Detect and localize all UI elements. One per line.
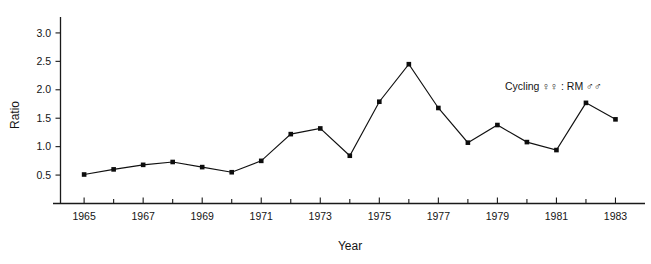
x-tick-label: 1965 <box>72 210 96 222</box>
data-point-marker <box>229 170 234 175</box>
data-point-marker <box>495 123 500 128</box>
series-legend-label: Cycling ♀♀ : RM ♂♂ <box>505 80 602 92</box>
data-point-marker <box>318 126 323 131</box>
y-tick-label: 1.5 <box>36 112 51 124</box>
data-point-marker <box>82 172 87 177</box>
x-tick-label: 1971 <box>250 210 274 222</box>
y-tick-label: 1.0 <box>36 140 51 152</box>
y-tick-label: 3.0 <box>36 27 51 39</box>
data-point-marker <box>170 160 175 165</box>
data-point-marker <box>377 99 382 104</box>
y-tick-label: 0.5 <box>36 169 51 181</box>
x-tick-label: 1967 <box>131 210 155 222</box>
line-chart: 0.51.01.52.02.53.0 196519671969197119731… <box>0 0 651 264</box>
data-point-marker <box>111 167 116 172</box>
data-point-marker <box>554 148 559 153</box>
y-tick-label: 2.0 <box>36 83 51 95</box>
x-tick-label: 1979 <box>486 210 510 222</box>
data-point-marker <box>288 132 293 137</box>
chart-background <box>0 0 651 264</box>
x-tick-label: 1977 <box>427 210 451 222</box>
x-tick-label: 1981 <box>545 210 569 222</box>
data-point-marker <box>407 62 412 67</box>
x-axis-title: Year <box>338 239 362 253</box>
x-tick-label: 1973 <box>309 210 333 222</box>
data-point-marker <box>259 159 264 164</box>
data-point-marker <box>436 106 441 111</box>
data-point-marker <box>348 153 353 158</box>
y-tick-label: 2.5 <box>36 55 51 67</box>
data-point-marker <box>466 140 471 145</box>
data-point-marker <box>584 101 589 106</box>
x-tick-label: 1983 <box>604 210 628 222</box>
x-tick-label: 1975 <box>368 210 392 222</box>
y-axis-title: Ratio <box>8 101 22 129</box>
x-tick-label: 1969 <box>191 210 215 222</box>
data-point-marker <box>613 117 618 122</box>
data-point-marker <box>200 165 205 170</box>
data-point-marker <box>141 163 146 168</box>
chart-figure: 0.51.01.52.02.53.0 196519671969197119731… <box>0 0 651 264</box>
data-point-marker <box>525 140 530 145</box>
